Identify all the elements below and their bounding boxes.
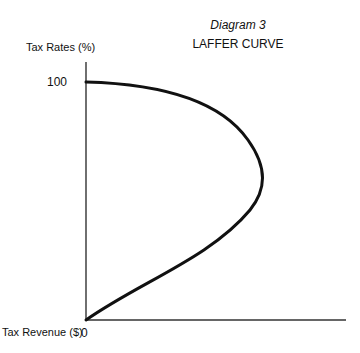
chart-plot-area [0,0,360,353]
laffer-curve-line [86,82,263,320]
